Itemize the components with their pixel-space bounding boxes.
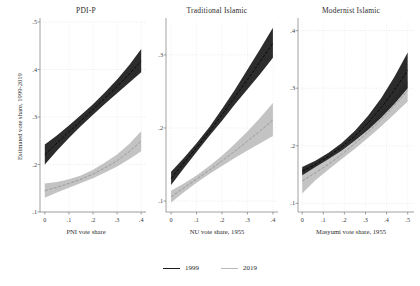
x-tick-label: .4 <box>266 216 280 223</box>
y-tick-label: .3 <box>284 84 295 91</box>
figure-container: Estimated vote share, 1999-2019 PDI-P PN… <box>0 0 420 286</box>
legend-label: 1999 <box>185 264 199 272</box>
x-axis-label: NU vote share, 1955 <box>152 228 282 235</box>
x-tick-label: 0 <box>164 216 178 223</box>
x-tick-label: .2 <box>86 216 100 223</box>
y-tick-label: .4 <box>284 27 295 34</box>
y-axis-label-container: Estimated vote share, 1999-2019 <box>0 0 22 250</box>
plot-area <box>22 0 150 250</box>
x-tick-label: .4 <box>134 216 148 223</box>
legend-item-1999: 1999 <box>163 264 199 272</box>
x-tick-label: .4 <box>380 216 394 223</box>
panel-pdi-p: PDI-P PNI vote share .1.2.3.4.50.1.2.3.4 <box>22 0 150 250</box>
x-tick-label: .3 <box>240 216 254 223</box>
x-axis-label: Masyumi vote share, 1955 <box>284 228 418 235</box>
y-tick-label: .2 <box>152 124 163 131</box>
y-tick-label: .2 <box>284 142 295 149</box>
y-tick-label: .5 <box>26 18 37 25</box>
x-tick-label: .5 <box>401 216 415 223</box>
legend-item-2019: 2019 <box>221 264 257 272</box>
x-tick-label: .2 <box>215 216 229 223</box>
y-tick-label: .1 <box>26 208 37 215</box>
x-tick-label: .1 <box>190 216 204 223</box>
x-axis-label: PNI vote share <box>22 228 150 235</box>
panel-traditional-islamic: Traditional Islamic NU vote share, 1955 … <box>152 0 282 250</box>
x-tick-label: 0 <box>38 216 52 223</box>
x-tick-label: .3 <box>110 216 124 223</box>
y-tick-label: .1 <box>284 199 295 206</box>
legend-line-swatch <box>163 268 180 269</box>
y-tick-label: .3 <box>152 51 163 58</box>
legend-label: 2019 <box>243 264 257 272</box>
x-tick-label: .2 <box>337 216 351 223</box>
plot-area <box>152 0 282 250</box>
x-tick-label: .1 <box>316 216 330 223</box>
y-tick-label: .4 <box>26 66 37 73</box>
x-tick-label: 0 <box>295 216 309 223</box>
legend-line-swatch <box>221 268 238 269</box>
legend: 1999 2019 <box>0 258 420 278</box>
y-tick-label: .1 <box>152 197 163 204</box>
x-tick-label: .3 <box>358 216 372 223</box>
y-tick-label: .3 <box>26 113 37 120</box>
y-tick-label: .2 <box>26 161 37 168</box>
plot-area <box>284 0 418 250</box>
x-tick-label: .1 <box>62 216 76 223</box>
panel-modernist-islamic: Modernist Islamic Masyumi vote share, 19… <box>284 0 418 250</box>
